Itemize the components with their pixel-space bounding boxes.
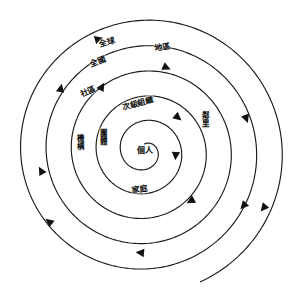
arrow-outer-left-low <box>35 165 46 176</box>
arrow-mid-bottom <box>135 248 144 257</box>
arrow-mid-upper-left <box>96 81 107 92</box>
ring-label-institution: 機構 <box>76 134 84 150</box>
arrow-mid-left <box>56 83 66 93</box>
ring-label-individual: 個人 <box>137 147 153 155</box>
arrow-inner-right <box>171 152 180 161</box>
ring-label-group: 團體 <box>99 129 107 145</box>
spiral-diagram-page: 個人家庭團體機構次級組織鄰里社區地區全國全球 <box>0 0 292 307</box>
arrow-outer-tip <box>257 202 269 214</box>
arrow-outer-right-low <box>237 200 249 212</box>
ring-label-neighborhood: 鄰里 <box>201 111 209 127</box>
arrow-inner-upper <box>172 112 184 124</box>
arrow-outer-top <box>161 62 172 73</box>
arrow-outer-left-bottom <box>43 216 55 228</box>
